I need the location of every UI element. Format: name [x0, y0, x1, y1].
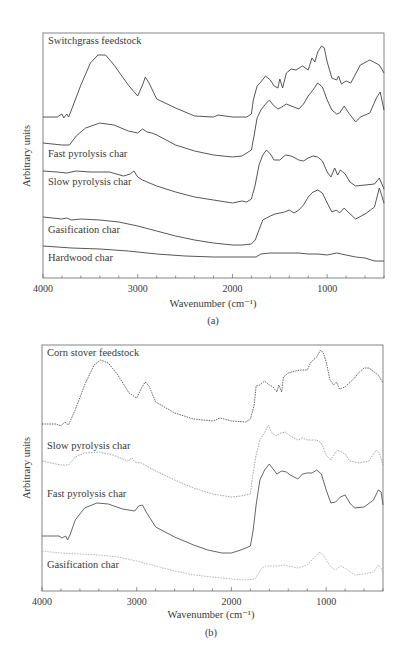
spectrum-line-slow-pyrolysis-char — [42, 425, 383, 497]
x-tick-label: 2000 — [221, 596, 241, 607]
x-tick-label: 4000 — [33, 283, 53, 294]
x-axis-ticks-a: 4000300020001000 — [33, 274, 384, 294]
y-axis-label-a: Arbitrary units — [21, 125, 32, 187]
series-label: Gasification char — [48, 224, 121, 235]
panel-b-chart: Corn stover feedstockSlow pyrolysis char… — [21, 345, 383, 639]
panel-a-chart: Switchgrass feedstockFast pyrolysis char… — [21, 33, 384, 327]
series-label: Switchgrass feedstock — [48, 35, 142, 46]
x-tick-label: 1000 — [316, 596, 336, 607]
x-axis-label-b: Wavenumber (cm⁻¹) — [168, 609, 255, 621]
spectra-curves-b — [42, 350, 383, 580]
x-axis-ticks-b: 4000300020001000 — [32, 587, 383, 607]
spectrum-line-corn-stover-feedstock — [42, 350, 383, 426]
x-tick-label: 3000 — [128, 283, 148, 294]
series-label: Corn stover feedstock — [47, 347, 140, 358]
y-axis-label-b: Arbitrary units — [21, 437, 32, 499]
ftir-figure: Switchgrass feedstockFast pyrolysis char… — [0, 0, 407, 655]
series-label: Fast pyrolysis char — [47, 488, 127, 499]
x-tick-label: 4000 — [32, 596, 52, 607]
x-axis-label-a: Wavenumber (cm⁻¹) — [170, 298, 257, 310]
panel-label-b: (b) — [205, 627, 218, 639]
series-label: Gasification char — [47, 559, 120, 570]
panel-label-a: (a) — [207, 315, 219, 327]
series-label: Hardwood char — [48, 252, 114, 263]
x-tick-label: 1000 — [317, 283, 337, 294]
x-tick-label: 3000 — [127, 596, 147, 607]
x-tick-label: 2000 — [222, 283, 242, 294]
spectrum-line-gasification-char — [43, 188, 384, 245]
series-labels-b: Corn stover feedstockSlow pyrolysis char… — [47, 347, 140, 570]
spectrum-line-switchgrass-feedstock — [43, 46, 384, 118]
series-label: Slow pyrolysis char — [48, 176, 132, 187]
spectrum-line-fast-pyrolysis-char — [42, 464, 383, 553]
series-labels-a: Switchgrass feedstockFast pyrolysis char… — [48, 35, 142, 263]
series-label: Slow pyrolysis char — [47, 440, 131, 451]
spectrum-line-fast-pyrolysis-char — [43, 83, 384, 157]
series-label: Fast pyrolysis char — [48, 148, 128, 159]
